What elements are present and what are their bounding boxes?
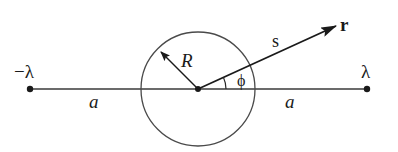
- distance-s-label: s: [272, 31, 279, 51]
- diagram-canvas: −λ λ R s r ϕ a a: [0, 0, 398, 152]
- neg-charge-label: −λ: [14, 61, 35, 82]
- angle-arc: [224, 77, 227, 89]
- angle-phi-label: ϕ: [237, 72, 245, 90]
- radius-label: R: [180, 50, 193, 71]
- neg-charge-point: [27, 86, 33, 92]
- vector-r-label: r: [340, 14, 349, 35]
- left-distance-label: a: [89, 91, 99, 112]
- pos-charge-label: λ: [361, 61, 371, 82]
- right-distance-label: a: [285, 91, 295, 112]
- pos-charge-point: [364, 86, 370, 92]
